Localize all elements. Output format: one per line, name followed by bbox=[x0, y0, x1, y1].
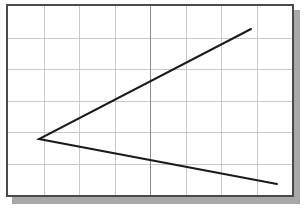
plot-area bbox=[8, 6, 292, 195]
plot-frame bbox=[6, 4, 294, 197]
figure-canvas bbox=[0, 0, 308, 214]
